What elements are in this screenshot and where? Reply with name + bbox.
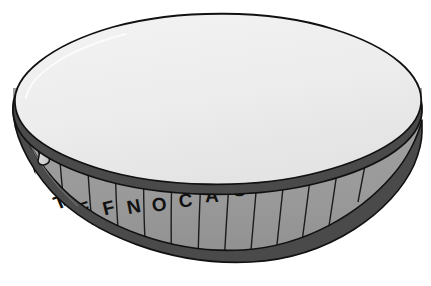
illustration-canvas: T E F N O C A S G I D R: [0, 0, 431, 286]
shell-letter: O: [150, 193, 168, 216]
drum-head: [15, 14, 421, 185]
head-surface: [15, 14, 421, 185]
drum-illustration: T E F N O C A S G I D R: [0, 0, 431, 286]
